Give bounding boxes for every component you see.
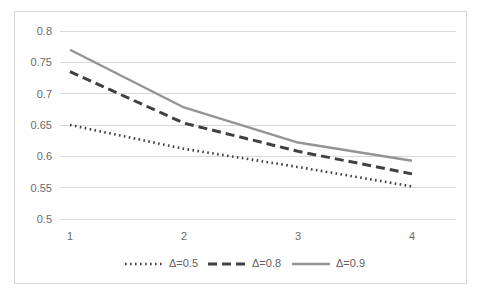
gridlines xyxy=(60,31,456,219)
series-lines xyxy=(70,50,412,187)
y-tick-label: 0.6 xyxy=(37,150,52,162)
x-tick-label: 3 xyxy=(295,230,301,242)
y-tick-label: 0.55 xyxy=(31,182,52,194)
y-tick-label: 0.65 xyxy=(31,119,52,131)
legend-label-0[interactable]: Δ=0.5 xyxy=(169,257,198,269)
legend-label-1[interactable]: Δ=0.8 xyxy=(252,257,281,269)
line-chart: 0.50.550.60.650.70.750.8 1234 Δ=0.5Δ=0.8… xyxy=(0,0,481,301)
series-line-0 xyxy=(70,125,412,186)
series-line-1 xyxy=(70,72,412,174)
x-tick-label: 4 xyxy=(409,230,415,242)
legend-label-2[interactable]: Δ=0.9 xyxy=(336,257,365,269)
x-tick-label: 1 xyxy=(67,230,73,242)
x-tick-label: 2 xyxy=(181,230,187,242)
series-line-2 xyxy=(70,50,412,161)
y-tick-label: 0.7 xyxy=(37,88,52,100)
y-tick-label: 0.8 xyxy=(37,25,52,37)
y-tick-label: 0.5 xyxy=(37,213,52,225)
y-tick-label: 0.75 xyxy=(31,56,52,68)
chart-legend: Δ=0.5Δ=0.8Δ=0.9 xyxy=(125,257,365,269)
x-axis-tick-labels: 1234 xyxy=(67,230,415,242)
y-axis-tick-labels: 0.50.550.60.650.70.750.8 xyxy=(31,25,52,225)
